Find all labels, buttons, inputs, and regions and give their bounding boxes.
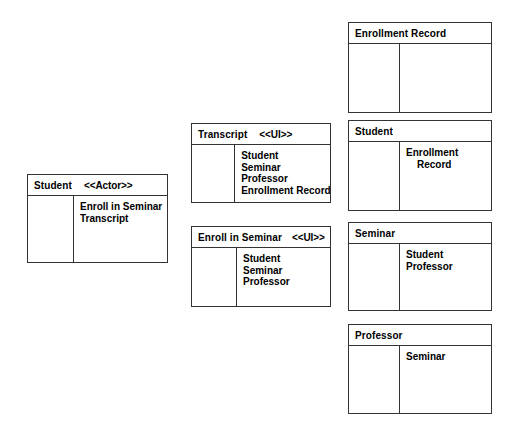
crc-card-name: Transcript: [198, 129, 247, 140]
crc-card-body: Enroll in Seminar Transcript: [28, 196, 167, 262]
crc-card-enrollment-record[interactable]: Enrollment Record: [348, 22, 492, 113]
crc-collaborator: Enrollment: [406, 147, 487, 159]
crc-collaborators-column: Student Professor: [400, 244, 491, 310]
crc-card-header: Professor: [349, 325, 491, 346]
crc-card-professor-entity[interactable]: Professor Seminar: [348, 324, 492, 414]
crc-collaborator: Professor: [243, 276, 326, 288]
crc-responsibilities-column: [349, 244, 400, 310]
crc-collaborators-column: Student Seminar Professor Enrollment Rec…: [235, 145, 330, 202]
crc-card-name: Student: [355, 126, 393, 137]
crc-card-body: [349, 44, 491, 112]
crc-collaborator: Transcript: [80, 213, 163, 225]
crc-card-name: Professor: [355, 330, 403, 341]
crc-card-header: Enroll in Seminar <<UI>>: [192, 227, 330, 248]
crc-card-header: Enrollment Record: [349, 23, 491, 44]
crc-collaborator: Student: [406, 249, 487, 261]
crc-card-body: Enrollment Record: [349, 142, 491, 210]
crc-card-header: Student <<Actor>>: [28, 175, 167, 196]
crc-collaborator: Record: [406, 159, 487, 171]
crc-collaborator: Professor: [241, 173, 326, 185]
crc-card-stereotype: <<UI>>: [292, 232, 325, 243]
crc-responsibilities-column: [192, 248, 237, 306]
crc-card-name: Student: [34, 180, 72, 191]
crc-collaborator: Seminar: [406, 351, 487, 363]
crc-collaborator: Student: [243, 253, 326, 265]
crc-collaborator: Professor: [406, 261, 487, 273]
crc-collaborators-column: Seminar: [400, 346, 491, 413]
crc-card-name: Enroll in Seminar: [198, 232, 282, 243]
crc-responsibilities-column: [28, 196, 74, 262]
crc-card-header: Transcript <<UI>>: [192, 124, 330, 145]
crc-collaborator: Enrollment Record: [241, 185, 326, 197]
crc-collaborator: Student: [241, 150, 326, 162]
crc-card-seminar-entity[interactable]: Seminar Student Professor: [348, 222, 492, 311]
crc-collaborator: Enroll in Seminar: [80, 201, 163, 213]
crc-card-body: Seminar: [349, 346, 491, 413]
crc-card-stereotype: <<Actor>>: [84, 180, 133, 191]
crc-card-body: Student Seminar Professor Enrollment Rec…: [192, 145, 330, 202]
crc-responsibilities-column: [349, 44, 400, 112]
crc-card-body: Student Seminar Professor: [192, 248, 330, 306]
crc-responsibilities-column: [349, 346, 400, 413]
crc-collaborator: Seminar: [243, 265, 326, 277]
crc-card-stereotype: <<UI>>: [259, 129, 292, 140]
crc-card-header: Seminar: [349, 223, 491, 244]
crc-responsibilities-column: [349, 142, 400, 210]
crc-card-header: Student: [349, 121, 491, 142]
crc-collaborators-column: Enrollment Record: [400, 142, 491, 210]
crc-card-name: Seminar: [355, 228, 395, 239]
crc-card-student-actor[interactable]: Student <<Actor>> Enroll in Seminar Tran…: [27, 174, 168, 263]
crc-card-enroll-in-seminar-ui[interactable]: Enroll in Seminar <<UI>> Student Seminar…: [191, 226, 331, 307]
crc-card-name: Enrollment Record: [355, 28, 446, 39]
crc-collaborator: Seminar: [241, 162, 326, 174]
crc-collaborators-column: Student Seminar Professor: [237, 248, 330, 306]
diagram-canvas: Enrollment Record Student Enrollment Rec…: [0, 0, 516, 428]
crc-collaborators-column: Enroll in Seminar Transcript: [74, 196, 167, 262]
crc-card-student-entity[interactable]: Student Enrollment Record: [348, 120, 492, 211]
crc-collaborators-column: [400, 44, 491, 112]
crc-responsibilities-column: [192, 145, 235, 202]
crc-card-transcript-ui[interactable]: Transcript <<UI>> Student Seminar Profes…: [191, 123, 331, 203]
crc-card-body: Student Professor: [349, 244, 491, 310]
